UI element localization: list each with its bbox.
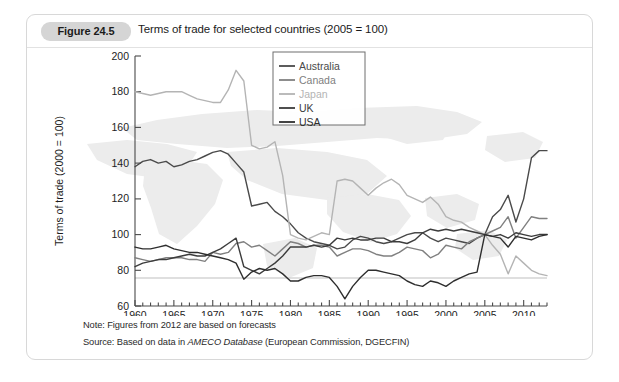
chart-legend: AustraliaCanadaJapanUKUSA xyxy=(273,52,365,128)
y-tick-120: 120 xyxy=(111,192,129,204)
y-axis-label: Terms of trade (2000 = 100) xyxy=(53,116,65,246)
figure-card: Figure 24.5 Terms of trade for selected … xyxy=(26,14,593,360)
x-tick-label-1960: 1960 xyxy=(123,309,147,316)
y-tick-200: 200 xyxy=(111,50,129,62)
y-tick-140: 140 xyxy=(111,157,129,169)
source-suffix: (European Commission, DGECFIN) xyxy=(263,337,410,347)
y-tick-180: 180 xyxy=(111,85,129,97)
x-tick-label-2005: 2005 xyxy=(473,309,497,316)
x-tick-label-1970: 1970 xyxy=(201,309,225,316)
x-tick-label-2000: 2000 xyxy=(434,309,458,316)
y-axis: 200 180 160 140 120 100 80 60 Terms of t… xyxy=(53,50,141,312)
legend-label-usa: USA xyxy=(299,116,321,128)
y-tick-80: 80 xyxy=(117,264,129,276)
x-tick-label-1990: 1990 xyxy=(357,309,381,316)
legend-label-canada: Canada xyxy=(299,74,336,86)
x-tick-label-2010: 2010 xyxy=(512,309,536,316)
legend-label-australia: Australia xyxy=(299,60,340,72)
figure-number-badge: Figure 24.5 xyxy=(41,22,131,41)
source-database-name: AMECO Database xyxy=(188,337,263,347)
y-tick-100: 100 xyxy=(111,228,129,240)
world-map-watermark xyxy=(87,106,543,278)
legend-label-uk: UK xyxy=(299,102,314,114)
x-tick-label-1980: 1980 xyxy=(279,309,303,316)
source-prefix: Source: Based on data in xyxy=(83,337,188,347)
x-tick-layer: 1960196519701975198019851990199520002005… xyxy=(123,300,547,316)
figure-header: Figure 24.5 Terms of trade for selected … xyxy=(27,15,592,48)
figure-source: Source: Based on data in AMECO Database … xyxy=(83,337,409,347)
x-tick-label-1965: 1965 xyxy=(162,309,186,316)
chart-plot-area: 200 180 160 140 120 100 80 60 Terms of t… xyxy=(27,48,594,316)
y-tick-160: 160 xyxy=(111,121,129,133)
terms-of-trade-line-chart: 200 180 160 140 120 100 80 60 Terms of t… xyxy=(27,48,594,316)
x-tick-label-1995: 1995 xyxy=(395,309,419,316)
figure-title: Terms of trade for selected countries (2… xyxy=(138,23,388,35)
x-tick-label-1985: 1985 xyxy=(318,309,342,316)
x-tick-label-1975: 1975 xyxy=(240,309,264,316)
legend-label-japan: Japan xyxy=(299,88,328,100)
figure-note: Note: Figures from 2012 are based on for… xyxy=(83,320,276,330)
